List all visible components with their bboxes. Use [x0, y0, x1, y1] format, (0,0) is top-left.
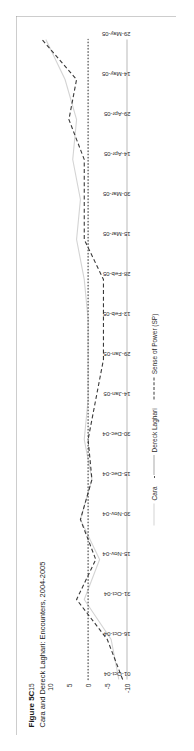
chart-legend: CaraDereck LaghariSense of Power (SP): [142, 313, 164, 525]
legend-label: Sense of Power (SP): [150, 313, 157, 374]
x-tick-label: 29-Jan-05: [103, 351, 130, 357]
y-tick-label: 0: [84, 683, 91, 705]
x-tick-label: 13-Feb-05: [102, 311, 130, 317]
chart-rotation-wrapper: Figure 5C Cara and Dereck Laghari: Encou…: [16, 16, 176, 735]
y-tick-label: 10: [46, 683, 53, 705]
legend-item: Sense of Power (SP): [150, 313, 157, 399]
x-tick-label: 29-May-05: [101, 31, 130, 37]
legend-swatch-icon: [153, 455, 154, 477]
plot-area: [30, 39, 126, 679]
x-tick-label: 30-Nov-04: [102, 511, 130, 517]
y-tick-label: -10: [123, 683, 130, 705]
series-line: [45, 39, 118, 679]
legend-label: Cara: [150, 486, 157, 500]
legend-swatch-icon: [153, 503, 154, 525]
y-tick-label: 5: [65, 683, 72, 705]
x-tick-label: 15-Mar-05: [102, 231, 130, 237]
x-tick-label: 31-Oct-04: [103, 591, 130, 597]
legend-swatch-icon: [153, 377, 154, 399]
x-tick-label: 30-Mar-05: [102, 191, 130, 197]
legend-label: Dereck Laghari: [150, 408, 157, 452]
series-line: [42, 39, 123, 679]
x-tick-label: 28-Feb-05: [102, 271, 130, 277]
y-tick-label: 15: [27, 683, 34, 705]
figure-page: Figure 5C Cara and Dereck Laghari: Encou…: [0, 0, 194, 751]
x-tick-label: 15-Dec-04: [102, 471, 130, 477]
series-lines: [30, 39, 126, 679]
x-tick-label: 30-Dec-04: [102, 431, 130, 437]
x-tick-label: 14-Apr-05: [103, 151, 130, 157]
x-tick-label: 29-Apr-05: [103, 111, 130, 117]
y-tick-label: -5: [103, 683, 110, 705]
x-tick-label: 14-May-05: [101, 71, 130, 77]
legend-item: Dereck Laghari: [150, 408, 157, 477]
chart-canvas: Figure 5C Cara and Dereck Laghari: Encou…: [16, 16, 176, 735]
x-tick-label: 15-Nov-04: [102, 551, 130, 557]
x-tick-label: 16-Oct-04: [103, 631, 130, 637]
x-tick-label: 14-Jan-05: [103, 391, 130, 397]
x-tick-label: 01-Oct-04: [103, 671, 130, 677]
legend-item: Cara: [150, 486, 157, 525]
